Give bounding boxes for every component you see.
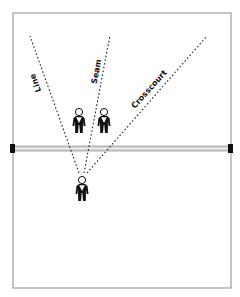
net-post-left (10, 144, 15, 153)
attack-line-crosscourt (87, 36, 207, 173)
attack-line-line (30, 36, 79, 173)
hitter-player (76, 176, 89, 201)
blocker-player-right (98, 108, 111, 133)
net-post-right (228, 144, 233, 153)
label-line: Line (28, 72, 43, 93)
blocker-player-left (73, 108, 86, 133)
label-crosscourt: Crosscourt (130, 68, 169, 110)
volleyball-diagram: Line Seam Crosscourt (0, 0, 240, 297)
attack-line-seam (84, 35, 110, 173)
label-seam: Seam (90, 58, 104, 84)
